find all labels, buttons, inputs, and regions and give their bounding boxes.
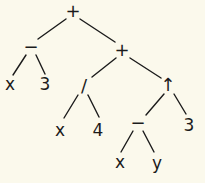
operand-node: 3 [184, 117, 195, 134]
operand-node: x [5, 76, 15, 93]
operator-node: + [65, 2, 80, 20]
tree-edge [130, 58, 161, 78]
tree-edge [36, 55, 45, 74]
operand-node: 3 [40, 76, 51, 93]
operand-node: 4 [93, 122, 104, 139]
operand-node: x [55, 122, 65, 139]
operand-node: x [115, 154, 125, 171]
operator-node: / [81, 77, 87, 95]
expression-tree: +−+x3/↑x4−3xy [0, 0, 205, 183]
tree-edge [143, 131, 154, 152]
tree-edge [88, 95, 99, 117]
tree-edge [92, 58, 116, 77]
operator-node: − [130, 114, 145, 132]
tree-edge [121, 131, 133, 152]
operator-node: ↑ [160, 76, 175, 94]
tree-edge [80, 19, 115, 42]
operand-node: y [152, 155, 162, 172]
operator-node: − [23, 38, 38, 56]
tree-edge [38, 19, 66, 39]
tree-edge [146, 94, 164, 115]
tree-edge [174, 94, 186, 114]
tree-edge [64, 95, 78, 118]
tree-edge [13, 55, 26, 75]
operator-node: + [114, 41, 129, 59]
